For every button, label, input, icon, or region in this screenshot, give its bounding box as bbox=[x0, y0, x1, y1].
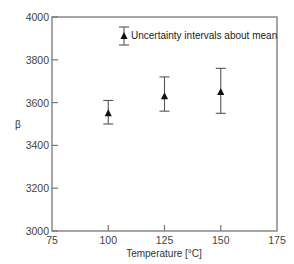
y-tick-label: 3600 bbox=[26, 97, 50, 109]
x-tick-label: 150 bbox=[212, 234, 230, 246]
data-point bbox=[103, 100, 113, 124]
y-tick-label: 4000 bbox=[26, 11, 50, 23]
x-tick-label: 125 bbox=[156, 234, 174, 246]
y-axis-title: β bbox=[15, 119, 21, 130]
triangle-marker-icon bbox=[120, 32, 127, 39]
x-tick-label: 100 bbox=[99, 234, 117, 246]
legend: Uncertainty intervals about mean bbox=[119, 27, 277, 45]
x-axis-title: Temperature [°C] bbox=[126, 248, 202, 259]
y-tick-label: 3200 bbox=[26, 182, 50, 194]
x-tick-label: 75 bbox=[46, 234, 58, 246]
x-tick-label: 175 bbox=[268, 234, 286, 246]
y-tick-label: 3400 bbox=[26, 139, 50, 151]
chart: 300032003400360038004000 75100125150175 … bbox=[0, 0, 294, 264]
x-axis: 75100125150175 bbox=[46, 225, 286, 246]
triangle-marker-icon bbox=[161, 92, 168, 99]
y-axis: 300032003400360038004000 bbox=[26, 11, 58, 237]
data-series bbox=[103, 68, 226, 124]
legend-label: Uncertainty intervals about mean bbox=[131, 30, 277, 41]
data-point bbox=[160, 77, 170, 111]
legend-errorbar-icon bbox=[119, 27, 129, 45]
triangle-marker-icon bbox=[105, 109, 112, 116]
y-tick-label: 3800 bbox=[26, 54, 50, 66]
triangle-marker-icon bbox=[217, 88, 224, 95]
plot-frame bbox=[52, 17, 277, 231]
data-point bbox=[216, 68, 226, 113]
plot-border bbox=[52, 17, 277, 231]
